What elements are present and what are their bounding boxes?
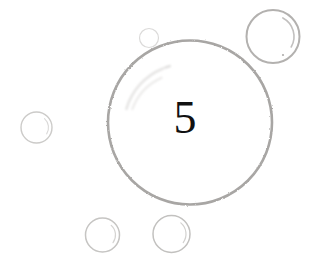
bubble-top-right-ring [247, 10, 300, 63]
bubble-left [21, 112, 52, 143]
bubble-bottom-right-highlight-arc [181, 223, 186, 243]
bubble-bottom-right [153, 216, 190, 253]
bubble-bottom-left [86, 218, 120, 252]
bubble-top-right-dot [282, 54, 284, 56]
bubble-top-right [247, 10, 300, 63]
bubble-bottom-left-highlight-arc [111, 225, 115, 242]
faint-smudge-group [126, 66, 170, 109]
bubbles-drawing [0, 0, 321, 273]
bubble-left-ring [21, 112, 52, 143]
bubble-top-right-highlight-arc [283, 18, 294, 47]
primary-number-label: 5 [174, 95, 197, 141]
bubble-left-highlight-arc [45, 119, 49, 134]
bubble-bottom-right-ring [153, 216, 190, 253]
image-canvas: 5 [0, 0, 321, 273]
bubble-tiny-top [140, 29, 159, 48]
smudge-tick [165, 66, 170, 68]
smudge-arc-inner [132, 78, 161, 109]
bubble-tiny-top-ring [140, 29, 159, 48]
bubble-bottom-left-ring [86, 218, 120, 252]
